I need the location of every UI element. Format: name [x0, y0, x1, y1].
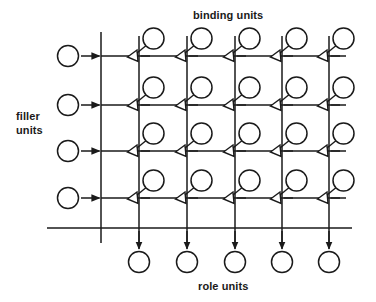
filler-unit-circle-4 [58, 188, 79, 209]
binding-unit-4-1-circle [143, 170, 164, 191]
binding-unit-1-2-circle [191, 28, 212, 49]
filler-unit-circle-1 [58, 46, 79, 67]
role-unit-circle-5 [319, 252, 340, 273]
binding-unit-4-5-arrowhead [318, 192, 329, 204]
filler-units-label: filler units [16, 109, 43, 137]
binding-units-group [128, 28, 355, 204]
binding-unit-2-3-arrowhead [224, 99, 235, 111]
binding-unit-4-4-arrowhead [271, 192, 282, 204]
binding-unit-3-2-arrowhead [176, 145, 187, 157]
binding-unit-1-2-arrowhead [176, 50, 187, 62]
network-graphic [0, 0, 376, 302]
binding-unit-2-5-circle [333, 77, 354, 98]
binding-unit-3-3-circle [239, 123, 260, 144]
binding-unit-4-2-arrowhead [176, 192, 187, 204]
binding-unit-1-4-circle [286, 28, 307, 49]
filler-unit-circle-2 [58, 95, 79, 116]
binding-unit-2-1-circle [143, 77, 164, 98]
binding-unit-4-4-circle [286, 170, 307, 191]
binding-unit-4-1-arrowhead [128, 192, 139, 204]
binding-unit-2-5 [318, 77, 355, 111]
binding-unit-1-3-circle [239, 28, 260, 49]
binding-unit-1-5-circle [333, 28, 354, 49]
role-units-label: role units [198, 279, 249, 293]
binding-unit-3-4-arrowhead [271, 145, 282, 157]
binding-unit-1-1-arrowhead [128, 50, 139, 62]
binding-unit-3-5 [318, 123, 355, 157]
binding-unit-1-3-arrowhead [224, 50, 235, 62]
binding-unit-2-4-circle [286, 77, 307, 98]
role-unit-circle-4 [272, 252, 293, 273]
binding-unit-3-5-circle [333, 123, 354, 144]
binding-unit-2-1-arrowhead [128, 99, 139, 111]
binding-unit-1-4-arrowhead [271, 50, 282, 62]
binding-unit-1-5 [318, 28, 355, 62]
binding-unit-3-5-arrowhead [318, 145, 329, 157]
binding-unit-3-4-circle [286, 123, 307, 144]
role-unit-circle-2 [177, 252, 198, 273]
binding-unit-2-2-arrowhead [176, 99, 187, 111]
binding-unit-4-3-arrowhead [224, 192, 235, 204]
binding-unit-2-4-arrowhead [271, 99, 282, 111]
binding-unit-4-3-circle [239, 170, 260, 191]
binding-unit-2-2-circle [191, 77, 212, 98]
binding-unit-4-5-circle [333, 170, 354, 191]
binding-unit-2-5-arrowhead [318, 99, 329, 111]
role-unit-circle-3 [225, 252, 246, 273]
network-diagram: binding units role units filler units [0, 0, 376, 302]
binding-unit-4-5 [318, 170, 355, 204]
role-units-group [129, 231, 340, 273]
filler-unit-circle-3 [58, 141, 79, 162]
binding-unit-1-1-circle [143, 28, 164, 49]
filler-units-group [58, 46, 100, 209]
role-unit-circle-1 [129, 252, 150, 273]
binding-unit-2-3-circle [239, 77, 260, 98]
binding-unit-3-3-arrowhead [224, 145, 235, 157]
binding-unit-3-2-circle [191, 123, 212, 144]
binding-unit-3-1-arrowhead [128, 145, 139, 157]
binding-unit-3-1-circle [143, 123, 164, 144]
binding-unit-4-2-circle [191, 170, 212, 191]
binding-unit-1-5-arrowhead [318, 50, 329, 62]
binding-units-label: binding units [193, 8, 263, 22]
